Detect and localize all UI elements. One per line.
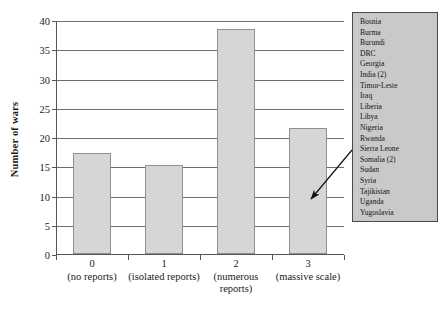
y-tick-label: 5 bbox=[45, 220, 50, 231]
y-tick-mark bbox=[52, 226, 57, 227]
country-list-item: Bosnia bbox=[360, 17, 437, 28]
gridline bbox=[56, 80, 344, 81]
country-list-legend: BosniaBurmaBurundiDRCGeorgiaIndia (2)Tim… bbox=[352, 12, 438, 222]
y-tick-mark bbox=[52, 50, 57, 51]
bar bbox=[73, 153, 111, 254]
y-tick-label: 20 bbox=[40, 133, 51, 144]
country-list-items: BosniaBurmaBurundiDRCGeorgiaIndia (2)Tim… bbox=[360, 17, 437, 218]
y-tick-mark bbox=[52, 197, 57, 198]
x-category-description: (numerous reports) bbox=[200, 271, 272, 296]
x-category-number: 3 bbox=[272, 258, 344, 271]
country-list-item: Tajikistan bbox=[360, 187, 437, 198]
gridline bbox=[56, 50, 344, 51]
y-tick-label: 35 bbox=[40, 45, 51, 56]
country-list-item: Uganda bbox=[360, 197, 437, 208]
y-tick-label: 40 bbox=[40, 16, 51, 27]
country-list-item: Liberia bbox=[360, 102, 437, 113]
x-tick-mark bbox=[344, 255, 345, 260]
x-category-description: (massive scale) bbox=[272, 271, 344, 284]
x-category-label: 0(no reports) bbox=[56, 258, 128, 283]
y-tick-label: 25 bbox=[40, 103, 51, 114]
country-list-item: Burma bbox=[360, 28, 437, 39]
y-tick-mark bbox=[52, 109, 57, 110]
country-list-item: Syria bbox=[360, 176, 437, 187]
country-list-item: Georgia bbox=[360, 59, 437, 70]
x-category-label: 1(isolated reports) bbox=[128, 258, 200, 283]
bar bbox=[289, 128, 327, 254]
country-list-item: Burundi bbox=[360, 38, 437, 49]
y-tick-label: 30 bbox=[40, 74, 51, 85]
y-axis-title-text: Number of wars bbox=[10, 102, 21, 178]
country-list-item: DRC bbox=[360, 49, 437, 60]
country-list-item: Timor-Leste bbox=[360, 81, 437, 92]
country-list-item: Libya bbox=[360, 112, 437, 123]
y-tick-label: 15 bbox=[40, 162, 51, 173]
y-tick-mark bbox=[52, 80, 57, 81]
y-axis-title: Number of wars bbox=[6, 0, 24, 315]
x-category-label: 2(numerous reports) bbox=[200, 258, 272, 296]
x-category-description: (isolated reports) bbox=[128, 271, 200, 284]
gridline bbox=[56, 21, 344, 22]
country-list-item: Somalia (2) bbox=[360, 155, 437, 166]
country-list-item: Iraq bbox=[360, 91, 437, 102]
country-list-item: India (2) bbox=[360, 70, 437, 81]
country-list-item: Sierra Leone bbox=[360, 144, 437, 155]
plot-area: 0510152025303540 bbox=[56, 21, 344, 255]
x-category-number: 0 bbox=[56, 258, 128, 271]
country-list-item: Nigeria bbox=[360, 123, 437, 134]
x-category-number: 2 bbox=[200, 258, 272, 271]
x-category-label: 3(massive scale) bbox=[272, 258, 344, 283]
y-tick-mark bbox=[52, 167, 57, 168]
y-tick-mark bbox=[52, 21, 57, 22]
x-category-description: (no reports) bbox=[56, 271, 128, 284]
country-list-item: Rwanda bbox=[360, 134, 437, 145]
y-tick-label: 0 bbox=[45, 250, 50, 261]
x-category-number: 1 bbox=[128, 258, 200, 271]
bar-chart-figure: Number of wars 0510152025303540 0(no rep… bbox=[0, 0, 444, 315]
bar bbox=[145, 165, 183, 254]
y-tick-label: 10 bbox=[40, 191, 51, 202]
country-list-item: Sudan bbox=[360, 165, 437, 176]
country-list-item: Yugoslavia bbox=[360, 208, 437, 219]
y-tick-mark bbox=[52, 138, 57, 139]
gridline bbox=[56, 109, 344, 110]
bar bbox=[217, 29, 255, 254]
